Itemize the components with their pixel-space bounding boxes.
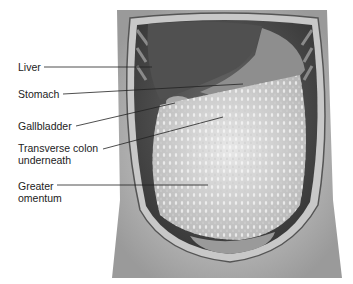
label-gallbladder: Gallbladder [18, 120, 72, 132]
label-liver: Liver [18, 61, 41, 73]
label-greater-omentum: Greater omentum [18, 180, 62, 204]
label-transverse-colon: Transverse colon underneath [18, 142, 98, 166]
label-stomach: Stomach [18, 88, 59, 100]
